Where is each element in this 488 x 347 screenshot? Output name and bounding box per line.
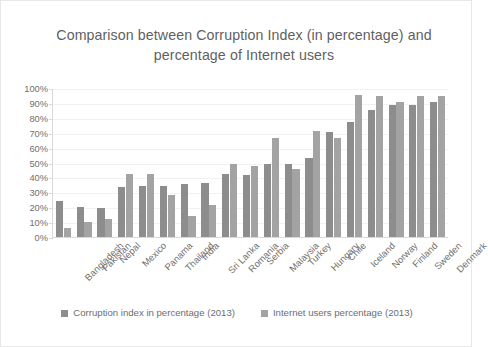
bar-group [157,89,178,238]
y-axis-tick-label: 0% [1,233,48,243]
bar-group [261,89,282,238]
bar [430,102,437,238]
y-axis-tick-label: 20% [1,203,48,213]
bar-group [115,89,136,238]
y-axis-tick-label: 40% [1,173,48,183]
bar [188,216,195,238]
bar-group [406,89,427,238]
y-axis-tick-label: 10% [1,218,48,228]
chart-title: Comparison between Corruption Index (in … [47,25,441,65]
bar [77,207,84,238]
bar [126,174,133,238]
bar [118,187,125,238]
bar [355,95,362,238]
legend-swatch-icon [61,310,68,317]
y-axis-tick-label: 100% [1,84,48,94]
bar-group [323,89,344,238]
x-axis-labels: BangladeshPakistanNepalMexicoPanamaThail… [53,240,448,302]
bar-group [95,89,116,238]
legend-label: Internet users percentage (2013) [273,308,413,318]
bar [368,110,375,238]
bar [272,138,279,238]
bar-group [302,89,323,238]
bar [326,132,333,238]
bar [305,158,312,238]
bar-group [178,89,199,238]
bar [181,184,188,238]
y-axis-labels: 0%10%20%30%40%50%60%70%80%90%100% [1,82,48,245]
legend-entry[interactable]: Corruption index in percentage (2013) [61,308,235,318]
bar [230,164,237,239]
y-axis-tick-label: 80% [1,114,48,124]
bar-group [365,89,386,238]
bar [409,105,416,238]
bar [160,186,167,238]
bar-group [427,89,448,238]
bar [347,122,354,238]
bar [168,195,175,238]
y-axis-tick-label: 50% [1,159,48,169]
bar [243,175,250,238]
bar [389,105,396,238]
bar [264,164,271,239]
bar [285,164,292,239]
legend-label: Corruption index in percentage (2013) [73,308,235,318]
plot-area [53,89,448,238]
bar-group [386,89,407,238]
bar-group [344,89,365,238]
legend-entry[interactable]: Internet users percentage (2013) [261,308,413,318]
bar-group [219,89,240,238]
bar-group [240,89,261,238]
bar [313,131,320,238]
bar [334,138,341,238]
bar [438,96,445,238]
bar [105,219,112,238]
bar-series-group [53,89,448,238]
bar [251,166,258,238]
bar [222,174,229,238]
bar [97,208,104,238]
y-axis-tick-label: 90% [1,99,48,109]
y-axis-tick-label: 60% [1,144,48,154]
bar-group [199,89,220,238]
x-axis-line [53,237,448,238]
bar [56,201,63,238]
bar-group [282,89,303,238]
bar [201,183,208,238]
bar [209,205,216,238]
bar [396,102,403,238]
bar [84,222,91,238]
y-axis-tick-label: 30% [1,188,48,198]
bar-group [136,89,157,238]
bar [376,96,383,238]
legend-swatch-icon [261,310,268,317]
y-axis-tick-label: 70% [1,129,48,139]
bar [147,174,154,238]
bar-group [53,89,74,238]
bar [292,169,299,238]
bar-group [74,89,95,238]
x-axis-tick-label: India [199,240,221,262]
bar [139,186,146,238]
chart-legend: Corruption index in percentage (2013)Int… [1,308,473,318]
bar [417,96,424,238]
